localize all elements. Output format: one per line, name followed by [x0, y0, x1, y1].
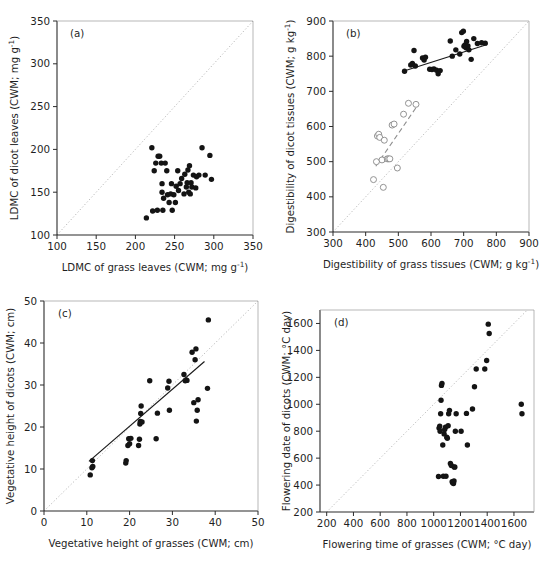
x-tick-label: 400: [356, 237, 376, 249]
y-tick-label: 250: [30, 100, 50, 112]
figure-container: 100150200250300350100150200250300350(a)L…: [0, 0, 552, 565]
data-point: [437, 68, 442, 73]
panel-tag: (b): [346, 27, 361, 39]
y-tick-label: 50: [24, 295, 37, 307]
x-tick-label: 40: [209, 516, 222, 528]
series-0-points: [88, 317, 212, 477]
y-tick-label: 20: [24, 421, 37, 433]
one-to-one-reference-line: [333, 21, 529, 232]
data-point: [138, 403, 143, 408]
x-tick-label: 150: [86, 240, 106, 252]
data-point: [195, 397, 200, 402]
x-axis-ticks: 300400500600700800900: [323, 232, 539, 249]
regression-line: [89, 361, 205, 461]
x-axis-title: Vegetative height of grasses (CWM; cm): [49, 538, 254, 549]
y-axis-title: Flowering date of dicots (CWM; °C day): [281, 311, 292, 511]
axis-frame: [57, 21, 253, 235]
x-tick-label: 900: [519, 237, 539, 249]
data-point: [176, 188, 181, 193]
data-point: [391, 121, 397, 127]
data-point: [452, 464, 457, 469]
data-point: [153, 436, 158, 441]
x-tick-label: 350: [243, 240, 263, 252]
data-point: [181, 372, 186, 377]
y-tick-label: 400: [293, 479, 313, 491]
panel-tag: (c): [58, 307, 72, 319]
data-point: [474, 366, 479, 371]
series-1-points: [371, 100, 419, 190]
data-point: [445, 423, 450, 428]
data-point: [486, 331, 491, 336]
data-point: [153, 160, 158, 165]
x-axis-title: Flowering time of grasses (CWM; °C day): [322, 539, 531, 550]
y-tick-label: 200: [30, 143, 50, 155]
x-tick-label: 600: [370, 517, 390, 529]
data-point: [166, 200, 171, 205]
data-point: [438, 398, 443, 403]
data-point: [380, 184, 386, 190]
data-point: [164, 168, 169, 173]
data-point: [159, 181, 164, 186]
data-point: [194, 418, 199, 423]
data-point: [169, 181, 174, 186]
y-tick-label: 400: [306, 190, 326, 202]
data-point: [193, 346, 198, 351]
y-tick-label: 700: [306, 85, 326, 97]
panel-d-plot: 2004006008001000120014001600200400600800…: [276, 283, 552, 565]
y-tick-label: 500: [306, 155, 326, 167]
data-point: [175, 168, 180, 173]
x-tick-label: 1600: [501, 517, 527, 529]
data-point: [436, 474, 441, 479]
data-point: [458, 429, 463, 434]
data-point: [90, 464, 95, 469]
data-point: [166, 379, 171, 384]
x-axis-ticks: 100150200250300350: [47, 235, 263, 252]
data-point: [188, 191, 193, 196]
y-tick-label: 300: [30, 57, 50, 69]
y-axis-title: Digestibility of dicot tissues (CWM; g k…: [283, 20, 297, 234]
data-point: [486, 321, 491, 326]
x-tick-label: 200: [126, 240, 146, 252]
y-axis-ticks: 100150200250300350: [30, 15, 57, 241]
y-tick-label: 0: [30, 505, 37, 517]
data-point: [165, 385, 170, 390]
data-point: [196, 172, 201, 177]
data-point: [381, 137, 387, 143]
y-tick-label: 900: [306, 15, 326, 27]
data-point: [464, 39, 469, 44]
x-tick-label: 250: [165, 240, 185, 252]
data-point: [144, 215, 149, 220]
x-tick-label: 600: [421, 237, 441, 249]
y-tick-label: 800: [293, 425, 313, 437]
data-point: [137, 436, 142, 441]
one-to-one-reference-line: [57, 21, 253, 235]
one-to-one-reference-line: [44, 301, 258, 511]
data-point: [387, 156, 393, 162]
axis-frame: [320, 310, 534, 512]
data-point: [88, 472, 93, 477]
panel-tag: (a): [70, 27, 84, 39]
data-point: [371, 177, 377, 183]
data-point: [437, 423, 442, 428]
y-tick-label: 600: [293, 452, 313, 464]
x-tick-label: 20: [123, 516, 136, 528]
panel-a-ldmc: 100150200250300350100150200250300350(a)L…: [0, 0, 276, 283]
data-point: [401, 111, 407, 117]
data-point: [206, 317, 211, 322]
x-axis-title: Digestibility of grass tissues (CWM; g k…: [323, 257, 539, 271]
data-point: [202, 172, 207, 177]
data-point: [450, 53, 455, 58]
data-point: [187, 163, 192, 168]
data-point: [152, 168, 157, 173]
data-point: [519, 402, 524, 407]
data-point: [439, 381, 444, 386]
x-axis-ticks: 01020304050: [41, 511, 265, 528]
data-point: [139, 419, 144, 424]
y-axis-title: LDMC of dicot leaves (CWM; mg g-1): [7, 36, 21, 220]
x-tick-label: 1000: [421, 517, 447, 529]
panel-b-digestibility: 3004005006007008009003004005006007008009…: [276, 0, 552, 283]
data-point: [470, 406, 475, 411]
data-point: [195, 408, 200, 413]
data-point: [484, 358, 489, 363]
panel-tag: (d): [334, 316, 349, 328]
